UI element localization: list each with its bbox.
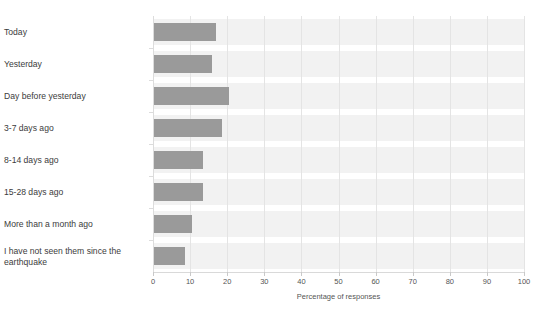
x-axis-tick-label: 50	[334, 277, 342, 286]
x-axis-tick	[450, 272, 451, 276]
x-axis-tick-label: 70	[409, 277, 417, 286]
bars	[153, 16, 524, 272]
x-axis-tick-label: 30	[260, 277, 268, 286]
bar	[153, 55, 212, 73]
x-axis-tick-label: 100	[518, 277, 531, 286]
bar	[153, 87, 229, 105]
x-axis-tick	[190, 272, 191, 276]
x-axis-tick-label: 60	[371, 277, 379, 286]
category-label: 15-28 days ago	[4, 187, 146, 198]
x-axis-tick-label: 0	[151, 277, 155, 286]
bar	[153, 151, 203, 169]
x-axis-tick-label: 90	[483, 277, 491, 286]
x-axis-tick	[301, 272, 302, 276]
category-label: More than a month ago	[4, 219, 146, 230]
x-axis-tick	[264, 272, 265, 276]
clipped-title	[0, 0, 535, 9]
x-axis-tick	[487, 272, 488, 276]
category-axis-labels: TodayYesterdayDay before yesterday3-7 da…	[0, 16, 150, 272]
x-axis-tick	[524, 272, 525, 276]
x-axis-tick-label: 80	[446, 277, 454, 286]
x-axis-tick	[227, 272, 228, 276]
category-label: Today	[4, 27, 146, 38]
bar	[153, 247, 185, 265]
x-axis-title: Percentage of responses	[153, 292, 524, 301]
bar	[153, 119, 222, 137]
category-label: Day before yesterday	[4, 91, 146, 102]
bar	[153, 215, 192, 233]
category-label: 3-7 days ago	[4, 123, 146, 134]
x-axis-tick-label: 10	[186, 277, 194, 286]
plot-area	[153, 16, 524, 272]
bar	[153, 23, 216, 41]
bar	[153, 183, 203, 201]
x-axis-tick	[413, 272, 414, 276]
x-axis-tick-label: 20	[223, 277, 231, 286]
x-axis-tick	[339, 272, 340, 276]
x-axis-tick	[153, 272, 154, 276]
y-axis-line	[153, 16, 154, 272]
x-axis-tick-label: 40	[297, 277, 305, 286]
category-label: 8-14 days ago	[4, 155, 146, 166]
gridline	[524, 16, 525, 272]
x-axis-ticks: 0102030405060708090100	[153, 272, 524, 294]
category-label: I have not seen them since the earthquak…	[4, 246, 146, 267]
x-axis-tick	[376, 272, 377, 276]
category-label: Yesterday	[4, 59, 146, 70]
bar-chart: TodayYesterdayDay before yesterday3-7 da…	[0, 0, 535, 311]
